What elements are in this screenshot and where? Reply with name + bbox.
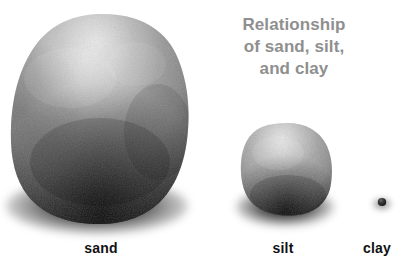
label-sand: sand	[78, 240, 124, 256]
title-line-3: and clay	[196, 58, 392, 80]
title-line-1: Relationship	[196, 14, 392, 36]
clay-grain	[377, 197, 387, 207]
silt-grain	[238, 121, 334, 217]
figure-title: Relationship of sand, silt, and clay	[196, 14, 392, 80]
silt-particle-group	[228, 110, 346, 236]
label-silt: silt	[265, 240, 301, 256]
clay-particle-group	[366, 186, 396, 218]
sand-grain	[8, 12, 192, 226]
label-clay: clay	[363, 240, 401, 256]
sand-particle-group	[0, 0, 200, 240]
title-line-2: of sand, silt,	[196, 36, 392, 58]
